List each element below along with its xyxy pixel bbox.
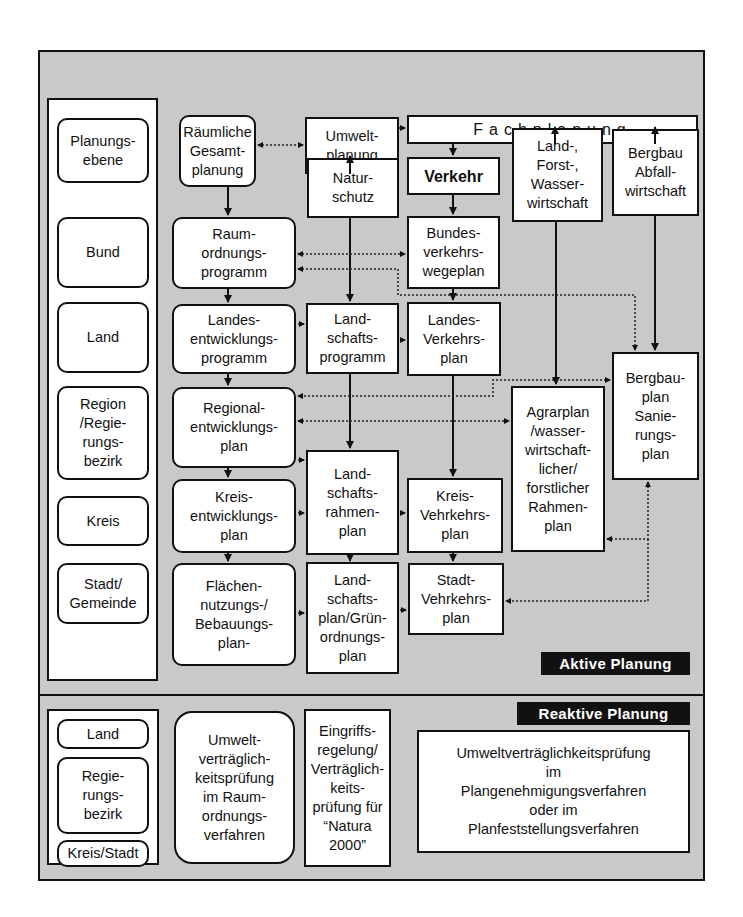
reactive-level-kreis-stadt: Kreis/Stadt (57, 840, 149, 867)
landschaftsplan-gruenordnungsplan: Land- schafts- plan/Grün- ordnungs- plan (306, 562, 399, 674)
kreisentwicklungsplan: Kreis- entwicklungs- plan (172, 479, 296, 553)
kreis-verkehrsplan: Kreis- Vehrkehrs- plan (407, 478, 503, 553)
reaktive-planung-label: Reaktive Planung (517, 702, 690, 725)
level-land: Land (57, 302, 149, 373)
agrarplan: Agrarplan /wasser- wirtschaft- licher/ f… (511, 386, 605, 552)
naturschutz: Natur- schutz (307, 158, 399, 218)
landesentwicklungsprogramm: Landes- entwicklungs- programm (172, 304, 296, 374)
level-region: Region /Regie- rungs- bezirk (57, 386, 149, 480)
flaechennutzungsplan: Flächen- nutzungs-/ Bebauungs- plan- (172, 563, 296, 666)
uvp-raumordnungsverfahren: Umwelt- verträglich- keitsprüfung im Rau… (174, 711, 295, 864)
level-kreis: Kreis (57, 496, 149, 546)
aktive-planung-label: Aktive Planung (541, 652, 690, 675)
bergbau-abfallwirtschaft: Bergbau Abfall- wirtschaft (612, 129, 699, 216)
reactive-level-land: Land (57, 719, 149, 749)
landes-verkehrsplan: Landes- Verkehrs- plan (407, 302, 501, 376)
raumordnungsprogramm: Raum- ordnungs- programm (172, 217, 296, 289)
bergbauplan-sanierungsplan: Bergbau- plan Sanie- rungs- plan (612, 352, 699, 480)
verkehr: Verkehr (407, 157, 500, 195)
level-header: Planungs- ebene (57, 118, 149, 183)
landschaftsprogramm: Land- schafts- programm (306, 303, 399, 374)
eingriffsregelung-natura-2000: Eingriffs- regelung/ Verträglich- keits-… (304, 709, 391, 867)
landschaftsrahmenplan: Land- schafts- rahmen- plan (306, 450, 399, 555)
bundesverkehrswegeplan: Bundes- verkehrs- wegeplan (407, 216, 500, 289)
regionalentwicklungsplan: Regional- entwicklungs- plan (172, 387, 296, 468)
uvp-plangenehmigung-planfeststellung: Umweltverträglichkeitsprüfung im Plangen… (417, 730, 690, 853)
reactive-level-regierungsbezirk: Regie- rungs- bezirk (57, 757, 149, 834)
stadt-verkehrsplan: Stadt- Vehrkehrs- plan (408, 563, 504, 635)
level-bund: Bund (57, 217, 149, 288)
land-forst-wasserwirtschaft: Land-, Forst-, Wasser- wirtschaft (512, 128, 603, 222)
level-stadt-gemeinde: Stadt/ Gemeinde (57, 563, 149, 624)
raeumliche-gesamtplanung: Räumliche Gesamt- planung (179, 115, 256, 187)
